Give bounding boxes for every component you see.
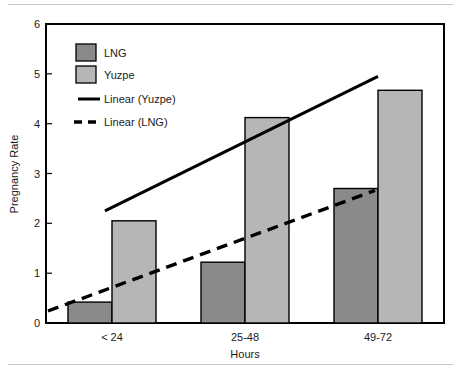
- legend-swatch-yuzpe: [76, 66, 96, 83]
- x-axis-title: Hours: [230, 348, 260, 360]
- x-axis-category-labels: < 24 25-48 49-72: [101, 331, 392, 343]
- y-tick-label-4: 4: [34, 118, 40, 130]
- legend-label-linear-yuzpe: Linear (Yuzpe): [104, 93, 176, 105]
- y-tick-label-3: 3: [34, 168, 40, 180]
- legend-label-lng: LNG: [104, 47, 127, 59]
- pregnancy-rate-bar-chart: 0 1 2 3 4 5 6 Pregnancy Rate < 2: [0, 0, 461, 375]
- y-tick-label-5: 5: [34, 68, 40, 80]
- x-label-lt24: < 24: [101, 331, 123, 343]
- x-label-25-48: 25-48: [231, 331, 259, 343]
- y-tick-label-0: 0: [34, 317, 40, 329]
- figure-container: 0 1 2 3 4 5 6 Pregnancy Rate < 2: [0, 0, 461, 375]
- y-tick-label-6: 6: [34, 18, 40, 30]
- y-tick-label-1: 1: [34, 267, 40, 279]
- bar-lng-49-72: [334, 189, 378, 324]
- bar-lng-lt24: [68, 302, 112, 323]
- x-label-49-72: 49-72: [364, 331, 392, 343]
- y-axis-tick-labels: 0 1 2 3 4 5 6: [34, 18, 40, 329]
- bar-yuzpe-25-48: [245, 118, 289, 323]
- legend-label-yuzpe: Yuzpe: [104, 69, 135, 81]
- bar-yuzpe-49-72: [378, 90, 422, 323]
- legend-swatch-lng: [76, 44, 96, 61]
- legend-label-linear-lng: Linear (LNG): [104, 116, 168, 128]
- y-axis-title: Pregnancy Rate: [8, 135, 20, 214]
- bar-lng-25-48: [201, 262, 245, 323]
- y-tick-label-2: 2: [34, 217, 40, 229]
